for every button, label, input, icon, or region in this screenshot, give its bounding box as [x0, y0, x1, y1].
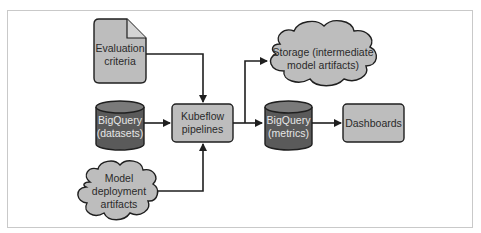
evaluation-criteria-line1: Evaluation [95, 42, 144, 54]
storage-line1: Storage (intermediate [273, 46, 374, 58]
node-kubeflow-pipelines: Kubeflow pipelines [172, 104, 233, 142]
bigquery-metrics-line1: BigQuery [267, 114, 312, 126]
node-model-deployment-artifacts: Model deployment artifacts [78, 161, 158, 220]
bigquery-metrics-line2: (metrics) [268, 127, 309, 139]
node-bigquery-metrics: BigQuery (metrics) [265, 101, 312, 150]
model-deployment-line2: deployment [92, 185, 146, 197]
bigquery-datasets-line2: (datasets) [97, 127, 144, 139]
node-bigquery-datasets: BigQuery (datasets) [96, 101, 144, 150]
dashboards-label: Dashboards [345, 117, 402, 129]
storage-line2: model artifacts) [287, 59, 359, 71]
kubeflow-line2: pipelines [182, 123, 223, 135]
bigquery-datasets-line1: BigQuery [98, 114, 143, 126]
kubeflow-line1: Kubeflow [181, 110, 225, 122]
node-storage: Storage (intermediate model artifacts) [270, 21, 376, 86]
edge-deployment-to-kubeflow [158, 144, 203, 191]
node-dashboards: Dashboards [343, 104, 404, 142]
pipeline-diagram: Evaluation criteria BigQuery (datasets) … [0, 0, 481, 233]
model-deployment-line1: Model [105, 172, 134, 184]
edge-evaluation-to-kubeflow [146, 54, 203, 102]
evaluation-criteria-line2: criteria [104, 55, 136, 67]
model-deployment-line3: artifacts [101, 198, 138, 210]
node-evaluation-criteria: Evaluation criteria [94, 19, 146, 83]
edge-kubeflow-to-storage [245, 61, 267, 123]
